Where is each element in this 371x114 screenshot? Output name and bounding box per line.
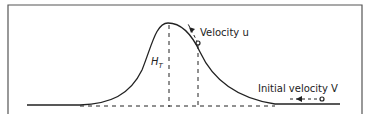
arrowhead-v-icon — [296, 96, 302, 102]
wave-diagram — [0, 0, 371, 114]
initial-velocity-label: Initial velocity V — [258, 83, 338, 94]
particle-u-marker — [196, 41, 200, 45]
frame — [8, 5, 362, 114]
particle-v-marker — [320, 97, 324, 101]
height-subscript: T — [159, 62, 163, 70]
height-label: HT — [151, 56, 163, 70]
velocity-u-label: Velocity u — [200, 27, 249, 38]
height-symbol: H — [151, 56, 159, 67]
